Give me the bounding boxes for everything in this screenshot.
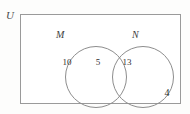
set-label-n: N: [132, 29, 139, 40]
universal-set-label: U: [6, 9, 14, 21]
count-intersection: 5: [91, 57, 105, 67]
set-label-m: M: [56, 29, 64, 40]
count-m-only: 10: [58, 57, 76, 67]
count-n-only: 13: [118, 57, 136, 67]
venn-diagram-figure: U M N 10 5 13 4: [0, 0, 190, 114]
set-circle-n: [112, 46, 174, 108]
count-outside-sets: 4: [160, 88, 174, 98]
